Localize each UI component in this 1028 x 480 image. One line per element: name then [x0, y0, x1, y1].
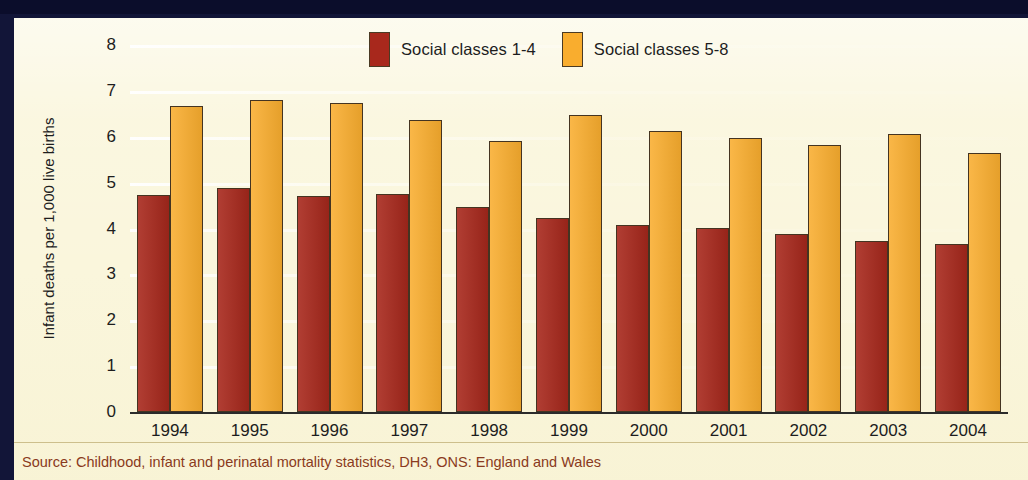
bar-group: 2002	[769, 45, 849, 412]
x-axis-tick-label: 2003	[869, 421, 907, 441]
x-axis-tick-label: 1996	[311, 421, 349, 441]
legend-item-social-classes-5-8: Social classes 5-8	[562, 32, 729, 67]
legend-swatch-orange-icon	[562, 32, 583, 67]
bar-2001-series-2[interactable]	[729, 138, 762, 412]
x-axis-tick-label: 2000	[630, 421, 668, 441]
plot-area: 876543210 199419951996199719981999200020…	[130, 45, 1008, 412]
bar-2000-series-1[interactable]	[616, 225, 649, 412]
y-axis-tick-label: 4	[107, 219, 116, 239]
x-axis-tick-label: 1997	[390, 421, 428, 441]
chart-legend: Social classes 1-4 Social classes 5-8	[369, 32, 729, 67]
x-axis-tick-label: 1998	[470, 421, 508, 441]
bar-1999-series-2[interactable]	[569, 115, 602, 412]
legend-label-series-1: Social classes 1-4	[401, 40, 536, 59]
bar-group: 1996	[290, 45, 370, 412]
bar-1998-series-2[interactable]	[489, 141, 522, 412]
axis-baseline: 0	[130, 412, 1008, 414]
bar-group: 1997	[369, 45, 449, 412]
legend-item-social-classes-1-4: Social classes 1-4	[369, 32, 536, 67]
source-divider	[14, 442, 1028, 443]
bar-1996-series-1[interactable]	[297, 196, 330, 412]
y-axis-tick-label: 1	[107, 356, 116, 376]
bar-group: 2000	[609, 45, 689, 412]
chart-panel: Social classes 1-4 Social classes 5-8 In…	[14, 18, 1028, 480]
x-axis-tick-label: 1999	[550, 421, 588, 441]
x-axis-tick-label: 2001	[710, 421, 748, 441]
bar-group: 1995	[210, 45, 290, 412]
bar-2002-series-2[interactable]	[808, 145, 841, 412]
bar-group: 2001	[689, 45, 769, 412]
bar-2002-series-1[interactable]	[775, 234, 808, 412]
bars-group: 1994199519961997199819992000200120022003…	[130, 45, 1008, 412]
bar-1995-series-2[interactable]	[250, 100, 283, 412]
bar-1997-series-2[interactable]	[409, 120, 442, 412]
bar-1996-series-2[interactable]	[330, 103, 363, 412]
y-axis-tick-label: 8	[107, 35, 116, 55]
x-axis-tick-label: 2004	[949, 421, 987, 441]
bar-group: 1994	[130, 45, 210, 412]
x-axis-tick-label: 1995	[231, 421, 269, 441]
x-axis-tick-label: 1994	[151, 421, 189, 441]
bar-1997-series-1[interactable]	[376, 194, 409, 412]
bar-group: 2004	[928, 45, 1008, 412]
legend-swatch-red-icon	[369, 32, 390, 67]
y-axis-tick-label: 6	[107, 127, 116, 147]
y-axis-title: Infant deaths per 1,000 live births	[36, 45, 62, 412]
bar-2003-series-1[interactable]	[855, 241, 888, 412]
chart-figure: Social classes 1-4 Social classes 5-8 In…	[0, 0, 1028, 480]
y-axis-tick-label: 5	[107, 173, 116, 193]
bar-1994-series-1[interactable]	[137, 195, 170, 412]
bar-1994-series-2[interactable]	[170, 106, 203, 412]
y-axis-tick-label: 2	[107, 310, 116, 330]
x-axis-tick-label: 2002	[789, 421, 827, 441]
y-axis-tick-label: 7	[107, 81, 116, 101]
bar-group: 1998	[449, 45, 529, 412]
y-axis-title-text: Infant deaths per 1,000 live births	[41, 118, 58, 340]
legend-label-series-2: Social classes 5-8	[594, 40, 729, 59]
bar-1995-series-1[interactable]	[217, 188, 250, 412]
y-axis-tick-label: 3	[107, 264, 116, 284]
bar-2001-series-1[interactable]	[696, 228, 729, 412]
bar-2004-series-1[interactable]	[935, 244, 968, 412]
bar-2000-series-2[interactable]	[649, 131, 682, 412]
source-note: Source: Childhood, infant and perinatal …	[22, 454, 601, 470]
bar-2004-series-2[interactable]	[968, 153, 1001, 412]
bar-1998-series-1[interactable]	[456, 207, 489, 412]
bar-group: 2003	[848, 45, 928, 412]
bar-1999-series-1[interactable]	[536, 218, 569, 412]
y-axis-tick-label: 0	[107, 402, 116, 422]
bar-group: 1999	[529, 45, 609, 412]
bar-2003-series-2[interactable]	[888, 134, 921, 412]
